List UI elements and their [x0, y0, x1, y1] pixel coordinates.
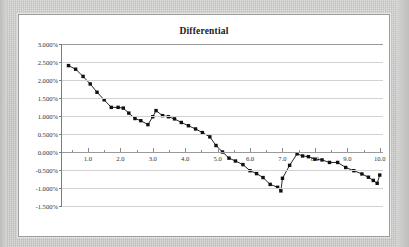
data-point-marker	[173, 117, 176, 120]
x-axis-label: 3.0	[149, 155, 157, 162]
x-axis-label: 1.0	[84, 155, 92, 162]
plot-area: 3.000%2.500%2.000%1.500%1.000%0.500%0.00…	[61, 44, 383, 207]
y-axis-label: 3.000%	[38, 41, 58, 48]
data-point-marker	[95, 91, 98, 94]
data-point-marker	[208, 135, 211, 138]
y-gridline	[62, 134, 383, 135]
data-point-marker	[127, 111, 130, 114]
y-axis-label: 0.500%	[38, 131, 58, 138]
y-gridline	[62, 206, 383, 207]
chart-panel: Differential 3.000%2.500%2.000%1.500%1.0…	[18, 14, 390, 237]
data-point-marker	[344, 166, 347, 169]
data-point-marker	[320, 158, 323, 161]
y-axis-tick	[59, 134, 62, 135]
data-point-marker	[67, 64, 70, 67]
y-gridline	[62, 188, 383, 189]
x-axis-minor-tick	[104, 150, 105, 152]
x-axis-label: 2.0	[116, 155, 124, 162]
y-axis-label: 2.000%	[38, 77, 58, 84]
data-point-marker	[133, 117, 136, 120]
x-axis-label: 10.0	[374, 155, 386, 162]
y-axis-tick	[59, 152, 62, 153]
data-point-marker	[241, 163, 244, 166]
x-axis-minor-tick	[201, 150, 202, 152]
data-point-marker	[116, 106, 119, 109]
y-axis-tick	[59, 170, 62, 171]
x-axis-label: 7.0	[278, 155, 286, 162]
data-point-marker	[261, 176, 264, 179]
x-axis-major-tick	[282, 148, 283, 152]
data-point-marker	[336, 161, 339, 164]
x-axis-minor-tick	[234, 150, 235, 152]
y-axis-tick	[59, 80, 62, 81]
data-point-marker	[227, 156, 230, 159]
x-axis-minor-tick	[331, 150, 332, 152]
data-point-marker	[375, 182, 378, 185]
data-point-marker	[288, 164, 291, 167]
y-axis-tick	[59, 206, 62, 207]
data-point-marker	[279, 189, 282, 192]
data-point-marker	[234, 159, 237, 162]
data-point-marker	[154, 109, 157, 112]
chart-title: Differential	[19, 26, 389, 36]
y-axis-tick	[59, 44, 62, 45]
screenshot-root: Differential 3.000%2.500%2.000%1.500%1.0…	[0, 0, 409, 247]
x-axis-major-tick	[120, 148, 121, 152]
x-axis-major-tick	[185, 148, 186, 152]
y-gridline	[62, 44, 383, 45]
data-line	[68, 66, 379, 191]
data-point-marker	[81, 75, 84, 78]
chart-svg	[62, 44, 383, 206]
y-axis-tick	[59, 98, 62, 99]
data-point-marker	[328, 161, 331, 164]
x-axis-label: 5.0	[214, 155, 222, 162]
y-axis-label: 1.000%	[38, 113, 58, 120]
data-point-marker	[139, 119, 142, 122]
y-axis-label: 0.000%	[38, 149, 58, 156]
data-point-marker	[301, 154, 304, 157]
x-axis-minor-tick	[299, 150, 300, 152]
x-axis-major-tick	[250, 148, 251, 152]
x-axis-minor-tick	[364, 150, 365, 152]
data-point-marker	[307, 155, 310, 158]
y-gridline	[62, 62, 383, 63]
data-point-marker	[122, 106, 125, 109]
data-point-marker	[194, 127, 197, 130]
data-point-marker	[268, 183, 271, 186]
x-axis-minor-tick	[137, 150, 138, 152]
x-axis-major-tick	[380, 148, 381, 152]
y-axis-tick	[59, 116, 62, 117]
y-axis-tick	[59, 188, 62, 189]
y-gridline	[62, 170, 383, 171]
y-gridline	[62, 98, 383, 99]
x-axis-label: 9.0	[343, 155, 351, 162]
data-point-marker	[146, 123, 149, 126]
x-axis-label: 6.0	[246, 155, 254, 162]
data-point-marker	[74, 68, 77, 71]
x-axis-major-tick	[315, 148, 316, 152]
y-gridline	[62, 152, 383, 153]
y-axis-label: -1.500%	[35, 203, 58, 210]
y-axis-tick	[59, 62, 62, 63]
x-axis-label: 8.0	[311, 155, 319, 162]
data-point-marker	[214, 144, 217, 147]
data-point-marker	[372, 179, 375, 182]
data-point-marker	[367, 176, 370, 179]
x-axis-major-tick	[88, 148, 89, 152]
y-gridline	[62, 80, 383, 81]
x-axis-minor-tick	[266, 150, 267, 152]
data-point-marker	[180, 121, 183, 124]
y-axis-label: -1.000%	[35, 185, 58, 192]
left-page-edge	[0, 0, 7, 247]
y-axis-label: 2.500%	[38, 59, 58, 66]
data-point-marker	[360, 172, 363, 175]
x-axis-minor-tick	[72, 150, 73, 152]
y-gridline	[62, 116, 383, 117]
x-axis-label: 4.0	[181, 155, 189, 162]
x-axis-major-tick	[153, 148, 154, 152]
data-point-marker	[187, 124, 190, 127]
data-point-marker	[255, 172, 258, 175]
x-axis-minor-tick	[169, 150, 170, 152]
y-axis-label: -0.500%	[35, 167, 58, 174]
y-axis-label: 1.500%	[38, 95, 58, 102]
